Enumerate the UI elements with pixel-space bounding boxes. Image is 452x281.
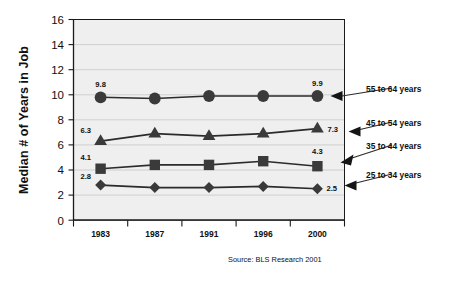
y-tick-label-0: 0 — [58, 215, 64, 227]
marker-square-1987 — [150, 160, 160, 170]
y-tick-label-12: 12 — [51, 64, 64, 76]
y-tick-label-10: 10 — [51, 89, 64, 101]
point-label-35to44-2000: 4.3 — [312, 147, 323, 156]
x-tick-label-2000: 2000 — [308, 229, 327, 239]
y-tick-label-8: 8 — [58, 114, 64, 126]
y-tick-label-14: 14 — [51, 39, 64, 51]
x-tick-label-1996: 1996 — [254, 229, 273, 239]
marker-circle-1983 — [95, 91, 107, 103]
y-axis-title: Median # of Years in Job — [17, 46, 31, 194]
marker-circle-1991 — [203, 90, 215, 102]
point-label-55to64-2000: 9.9 — [312, 79, 323, 88]
annotation-label-45-to-54: 45 to 54 years — [366, 118, 422, 128]
marker-circle-2000 — [312, 90, 324, 102]
marker-circle-1996 — [257, 90, 269, 102]
x-tick-label-1987: 1987 — [145, 229, 164, 239]
point-label-25to34-1983: 2.8 — [80, 172, 91, 181]
y-tick-label-2: 2 — [58, 189, 64, 201]
point-label-55to64-1983: 9.8 — [95, 80, 106, 89]
point-label-45to54-1983: 6.3 — [80, 126, 91, 135]
marker-square-1991 — [204, 160, 214, 170]
y-tick-label-6: 6 — [58, 139, 64, 151]
marker-square-1983 — [95, 164, 105, 174]
marker-square-2000 — [312, 161, 322, 171]
x-tick-label-1991: 1991 — [200, 229, 219, 239]
x-tick-label-1983: 1983 — [91, 229, 110, 239]
annotation-label-35-to-44: 35 to 44 years — [366, 141, 422, 151]
source-note: Source: BLS Research 2001 — [228, 255, 322, 264]
y-tick-label-16: 16 — [51, 14, 64, 26]
marker-circle-1987 — [149, 93, 161, 105]
annotation-label-55-to-64: 55 to 64 years — [366, 84, 422, 94]
point-label-45to54-2000: 7.3 — [328, 125, 339, 134]
point-label-35to44-1983: 4.1 — [80, 153, 91, 162]
point-label-25to34-2000: 2.5 — [327, 184, 338, 193]
line-chart-figure: 16 14 12 10 8 6 4 2 0 1983 1987 1991 — [0, 0, 452, 281]
marker-square-1996 — [258, 156, 268, 166]
y-tick-label-4: 4 — [58, 164, 65, 176]
annotation-label-25-to-34: 25 to 34 years — [366, 170, 422, 180]
